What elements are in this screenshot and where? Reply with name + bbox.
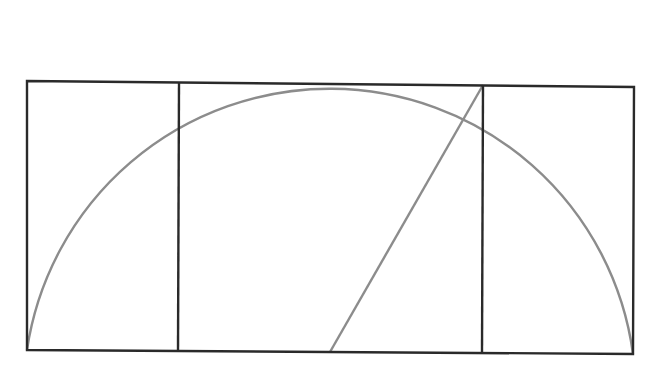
golden-ratio-diagram: [0, 0, 655, 372]
background: [0, 0, 655, 372]
inner-square-left-edge: [178, 83, 179, 351]
inner-square-right-edge: [482, 85, 483, 353]
